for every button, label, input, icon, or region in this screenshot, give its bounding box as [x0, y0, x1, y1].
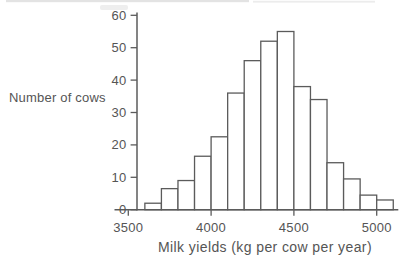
- scan-artifact: [6, 0, 249, 2]
- x-tick-label: 4500: [279, 220, 309, 235]
- histogram-bar: [195, 156, 212, 209]
- y-tick-label: 60: [111, 8, 126, 23]
- histogram-bar: [244, 61, 261, 210]
- x-tick-label: 5000: [362, 220, 392, 235]
- y-tick-label: 0: [119, 202, 127, 217]
- histogram-bar: [327, 163, 344, 210]
- histogram-bar: [277, 32, 294, 210]
- histogram-figure: Number of cows 0102030405060350040004500…: [0, 0, 401, 265]
- histogram-bar: [211, 137, 228, 210]
- histogram-bar: [228, 93, 245, 210]
- x-tick-label: 3500: [113, 220, 143, 235]
- scan-artifact: [253, 1, 375, 3]
- histogram-bar: [310, 100, 327, 210]
- histogram-bar: [377, 200, 394, 210]
- y-tick-label: 50: [111, 40, 126, 55]
- histogram-bar: [360, 195, 377, 210]
- x-tick-label: 4000: [196, 220, 226, 235]
- histogram-bar: [261, 41, 278, 209]
- y-tick-label: 40: [111, 73, 126, 88]
- histogram-chart: 01020304050603500400045005000Milk yields…: [0, 0, 401, 265]
- y-tick-label: 10: [111, 170, 126, 185]
- histogram-bar: [344, 179, 361, 210]
- histogram-bar: [178, 181, 195, 210]
- histogram-bar: [161, 189, 178, 210]
- y-tick-label: 30: [111, 105, 126, 120]
- y-tick-label: 20: [111, 137, 126, 152]
- histogram-bar: [145, 203, 162, 209]
- x-axis-title: Milk yields (kg per cow per year): [158, 239, 372, 255]
- histogram-bar: [294, 87, 311, 210]
